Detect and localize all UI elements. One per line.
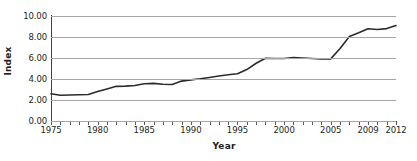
y-tick-label: 10.00 <box>23 11 47 21</box>
x-tick-label: 1985 <box>134 125 155 135</box>
y-tick-label: 4.00 <box>28 74 47 84</box>
x-axis-tick-labels: 197519801985199019952000200520092012 <box>0 125 417 139</box>
y-axis-tick-labels: 10.008.006.004.002.000.00 <box>14 0 50 126</box>
plot-area <box>51 16 396 121</box>
x-axis-title: Year <box>51 141 397 151</box>
y-tick-label: 2.00 <box>28 95 47 105</box>
gridline-y <box>51 79 396 80</box>
x-tick-label: 2009 <box>357 125 378 135</box>
x-tick-label: 1975 <box>40 125 61 135</box>
y-tick-label: 6.00 <box>28 53 47 63</box>
gridline-y <box>51 100 396 101</box>
line-chart: Index 10.008.006.004.002.000.00 19751980… <box>0 0 417 161</box>
y-axis-title-label: Index <box>3 46 13 75</box>
series-path <box>51 25 396 95</box>
x-tick-label: 2000 <box>273 125 294 135</box>
x-tick-label: 2012 <box>385 125 406 135</box>
x-tick-label: 1980 <box>87 125 108 135</box>
gridline-y <box>51 37 396 38</box>
x-tick-label: 1990 <box>180 125 201 135</box>
y-tick-label: 8.00 <box>28 32 47 42</box>
series-line-index <box>51 16 396 121</box>
x-tick-label: 2005 <box>320 125 341 135</box>
gridline-y <box>51 58 396 59</box>
x-tick-label: 1995 <box>227 125 248 135</box>
gridline-y <box>51 16 396 17</box>
